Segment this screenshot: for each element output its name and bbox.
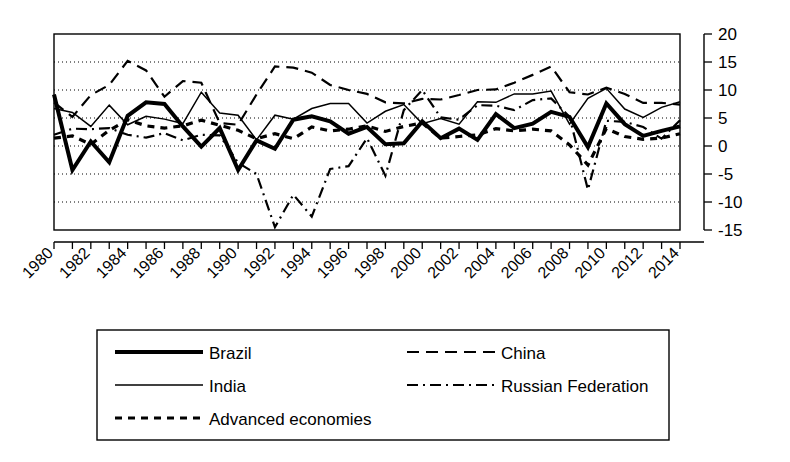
x-tick-label: 1982 bbox=[56, 244, 93, 281]
y-tick-label: 5 bbox=[718, 109, 727, 128]
x-tick-label: 2004 bbox=[461, 244, 498, 281]
legend-label-brazil: Brazil bbox=[209, 344, 252, 363]
legend-item-china[interactable]: China bbox=[407, 344, 546, 363]
x-tick-label: 2008 bbox=[534, 244, 571, 281]
x-tick-label: 2010 bbox=[571, 244, 608, 281]
x-tick-label: 2006 bbox=[498, 244, 535, 281]
y-tick-label: 15 bbox=[718, 53, 737, 72]
x-tick-label: 2014 bbox=[645, 244, 682, 281]
legend-label-russian-federation: Russian Federation bbox=[501, 377, 648, 396]
gdp-growth-line-chart: 20151050-5-10-15 19801982198419861988199… bbox=[0, 0, 790, 462]
plot-frame bbox=[54, 34, 680, 230]
series-line-china bbox=[54, 61, 680, 125]
x-tick-label: 1980 bbox=[19, 244, 56, 281]
x-tick-label: 2000 bbox=[387, 244, 424, 281]
legend-item-brazil[interactable]: Brazil bbox=[115, 344, 252, 363]
chart-legend: BrazilChinaIndiaRussian FederationAdvanc… bbox=[97, 330, 669, 440]
x-tick-label: 1986 bbox=[129, 244, 166, 281]
x-tick-label: 2012 bbox=[608, 244, 645, 281]
y-tick-label: 20 bbox=[718, 25, 737, 44]
series-line-india bbox=[54, 88, 680, 140]
y-tick-label: -10 bbox=[718, 193, 743, 212]
x-tick-label: 1990 bbox=[203, 244, 240, 281]
x-tick-label: 1994 bbox=[277, 244, 314, 281]
chart-container: 20151050-5-10-15 19801982198419861988199… bbox=[0, 0, 790, 462]
x-tick-label: 2002 bbox=[424, 244, 461, 281]
x-tick-label: 1992 bbox=[240, 244, 277, 281]
x-axis: 1980198219841986198819901992199419961998… bbox=[19, 242, 704, 281]
legend-item-advanced-economies[interactable]: Advanced economies bbox=[115, 410, 372, 429]
y-tick-label: -15 bbox=[718, 221, 743, 240]
legend-label-china: China bbox=[501, 344, 546, 363]
series-line-russian-federation bbox=[54, 90, 680, 227]
x-tick-label: 1984 bbox=[93, 244, 130, 281]
series-line-brazil bbox=[54, 94, 680, 170]
legend-label-india: India bbox=[209, 377, 246, 396]
y-axis: 20151050-5-10-15 bbox=[704, 25, 743, 240]
y-tick-label: 10 bbox=[718, 81, 737, 100]
legend-item-russian-federation[interactable]: Russian Federation bbox=[407, 377, 648, 396]
legend-label-advanced-economies: Advanced economies bbox=[209, 410, 372, 429]
x-tick-label: 1998 bbox=[350, 244, 387, 281]
y-tick-label: -5 bbox=[718, 165, 733, 184]
x-tick-label: 1996 bbox=[314, 244, 351, 281]
y-tick-label: 0 bbox=[718, 137, 727, 156]
x-tick-label: 1988 bbox=[166, 244, 203, 281]
plot-area-border bbox=[54, 34, 680, 230]
legend-item-india[interactable]: India bbox=[115, 377, 246, 396]
